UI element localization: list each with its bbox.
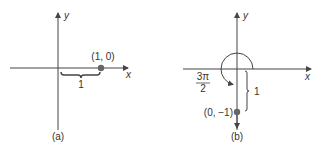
x-axis-label: x (304, 71, 311, 82)
angle-arc-arrow (221, 69, 233, 85)
y-axis-label: y (63, 10, 70, 21)
panel-a: (1, 0) x y 1 (a) (10, 10, 132, 142)
panel-b: (0, −1) 3π 2 x y 1 (b) (183, 10, 311, 142)
point-1-0 (98, 65, 104, 71)
x-axis-label: x (125, 69, 132, 80)
unit-circle-points-diagram: (1, 0) x y 1 (a) (0, −1) 3π 2 x y 1 (b) (0, 0, 321, 152)
length-brace (245, 71, 249, 111)
panel-caption: (a) (52, 131, 64, 142)
y-axis-label: y (242, 10, 249, 21)
angle-denominator: 2 (200, 83, 206, 94)
length-brace (61, 72, 100, 78)
panel-caption: (b) (231, 131, 243, 142)
point-label: (1, 0) (91, 51, 114, 62)
angle-numerator: 3π (197, 71, 210, 82)
point-0-neg1 (234, 109, 240, 115)
point-label: (0, −1) (204, 107, 233, 118)
brace-label: 1 (78, 79, 84, 90)
brace-label: 1 (254, 86, 260, 97)
